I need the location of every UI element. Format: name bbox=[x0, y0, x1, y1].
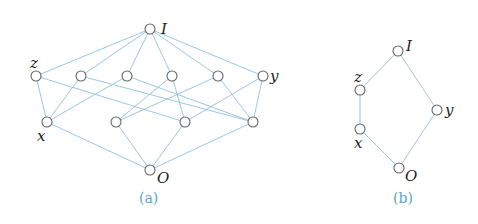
node-b-bottom bbox=[394, 163, 404, 173]
label-a-z: z bbox=[29, 54, 38, 72]
panel-a-edges bbox=[36, 29, 263, 170]
caption-b: (b) bbox=[393, 190, 413, 206]
node-a-t2 bbox=[76, 71, 86, 81]
node-a-t4 bbox=[167, 71, 177, 81]
panel-b-nodes bbox=[355, 46, 442, 173]
node-a-x bbox=[42, 117, 52, 127]
node-a-t3 bbox=[122, 71, 132, 81]
label-a-x: x bbox=[37, 127, 46, 145]
node-a-bottom bbox=[145, 165, 155, 175]
lattice-diagrams: I z y x O (a) I z y x O (b) bbox=[0, 0, 478, 224]
node-b-x bbox=[355, 124, 365, 134]
panel-a-nodes bbox=[31, 24, 268, 175]
label-b-x: x bbox=[354, 134, 363, 152]
node-a-top bbox=[145, 24, 155, 34]
label-a-top: I bbox=[160, 20, 168, 38]
node-a-m4 bbox=[248, 117, 258, 127]
node-a-m3 bbox=[180, 117, 190, 127]
node-b-top bbox=[393, 46, 403, 56]
node-b-z bbox=[355, 85, 365, 95]
label-a-y: y bbox=[269, 67, 279, 85]
node-a-m2 bbox=[111, 117, 121, 127]
label-b-z: z bbox=[353, 68, 362, 86]
node-a-y bbox=[258, 71, 268, 81]
label-b-y: y bbox=[444, 101, 454, 119]
node-b-y bbox=[432, 105, 442, 115]
label-b-bottom: O bbox=[405, 167, 417, 185]
label-b-top: I bbox=[405, 37, 413, 55]
node-a-z bbox=[31, 71, 41, 81]
caption-a: (a) bbox=[139, 190, 158, 206]
node-a-t5 bbox=[213, 71, 223, 81]
panel-b-edges bbox=[360, 51, 437, 168]
label-a-bottom: O bbox=[157, 169, 169, 187]
